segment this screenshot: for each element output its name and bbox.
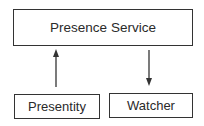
watcher-label: Watcher [127,98,175,113]
arrowhead-up-icon [53,49,59,57]
presentity-box: Presentity [14,94,100,119]
presentity-label: Presentity [28,99,86,114]
watcher-box: Watcher [109,93,193,118]
arrow-presentity-to-service [53,49,59,87]
arrowhead-down-icon [146,78,152,86]
arrow-service-to-watcher [146,50,152,86]
